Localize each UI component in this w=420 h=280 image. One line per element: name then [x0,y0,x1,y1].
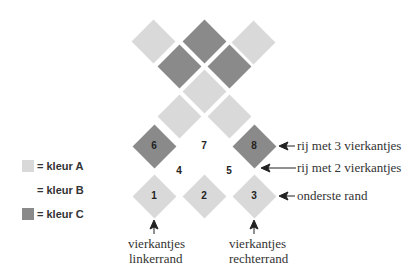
legend-swatch-kleur-c [22,208,34,220]
legend-swatch-kleur-a [22,160,34,172]
label-right-edge-line1: vierkantjes [229,237,286,251]
legend-label-kleur-a: = kleur A [37,160,83,172]
label-row-2-squares: rij met 2 vierkantjes [297,161,401,175]
label-left-edge-line1: vierkantjes [128,237,185,251]
label-left-edge-line2: linkerrand [129,252,182,266]
legend-label-kleur-b: = kleur B [37,184,84,196]
label-right-edge-line2: rechterrand [229,252,288,266]
diagram: 6 7 8 4 5 1 2 3 rij met 3 vierkantjes ri… [0,0,420,280]
label-bottom-edge: onderste rand [297,189,367,203]
legend-label-kleur-c: = kleur C [37,208,84,220]
label-row-3-squares: rij met 3 vierkantjes [297,139,401,153]
